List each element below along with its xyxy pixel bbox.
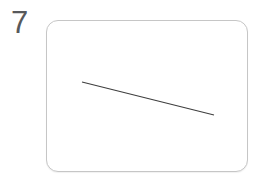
line-figure bbox=[47, 21, 247, 171]
item-number: 7 bbox=[11, 7, 28, 38]
figure-card bbox=[46, 20, 248, 172]
worksheet-item: 7 bbox=[0, 0, 261, 183]
diagonal-line-segment bbox=[82, 82, 214, 115]
